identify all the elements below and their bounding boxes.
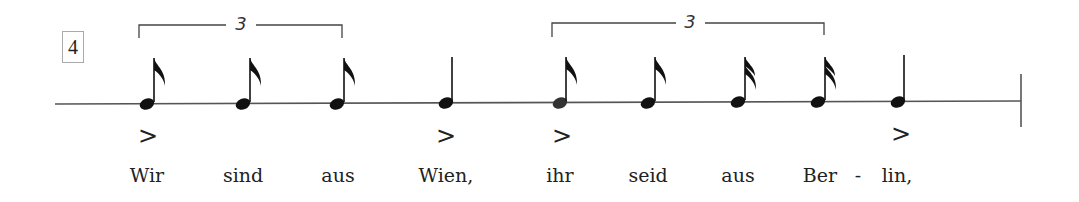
quarter-note [437, 57, 455, 111]
lyric-syllable: aus [721, 163, 754, 187]
lyric-syllable: ihr [546, 163, 573, 187]
accent-mark: > [436, 124, 456, 148]
tuplet-number-1: 3 [229, 13, 252, 35]
lyric-syllable: Wir [130, 163, 164, 187]
rhythm-score: 4 3 3 > > > > Wir sind aus Wien, ihr sei… [0, 0, 1079, 202]
measure-number-box: 4 [62, 31, 84, 63]
lyric-syllable: sind [223, 163, 263, 187]
lyric-hyphen: - [855, 163, 861, 187]
lyric-syllable: aus [321, 163, 354, 187]
lyric-syllable: seid [628, 163, 667, 187]
lyric-syllable: Ber [803, 163, 837, 187]
tuplet-number-2: 3 [678, 11, 701, 33]
quarter-note [889, 55, 907, 110]
accent-mark: > [891, 122, 911, 146]
staff-line [55, 101, 1021, 104]
lyric-syllable: Wien, [419, 163, 474, 187]
lyric-syllable: lin, [882, 163, 912, 187]
accent-mark: > [552, 124, 572, 148]
accent-mark: > [138, 124, 158, 148]
